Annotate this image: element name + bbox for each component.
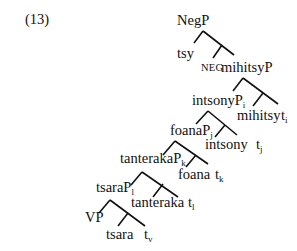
node-tanterakap: tanterakaPk (120, 151, 186, 166)
tree-branches (0, 0, 297, 251)
node-mihitsyp: mihitsyP (221, 60, 273, 75)
trace-i: ti (281, 108, 288, 123)
node-foana: foana (178, 167, 210, 182)
node-tanteraka: tanteraka (131, 195, 184, 210)
trace-l: tl (188, 195, 195, 210)
node-mihitsy: mihitsy (237, 108, 281, 123)
example-number: (13) (25, 12, 49, 27)
trace-k: tk (215, 167, 224, 182)
node-neg-label: NEG (201, 63, 223, 74)
node-tsy: tsy (177, 46, 194, 61)
node-tsara: tsara (106, 227, 133, 242)
node-vp: VP (85, 210, 104, 225)
trace-j: tj (256, 137, 263, 152)
syntax-tree-figure: (13) NegP tsy NEG mihitsyP intsonyPi mih… (0, 0, 297, 251)
node-negp: NegP (177, 13, 209, 28)
node-intsonyp: intsonyPi (192, 93, 245, 108)
trace-v: tv (144, 227, 153, 242)
node-intsony: intsony (205, 137, 248, 152)
node-tsarap: tsaraPl (96, 180, 134, 195)
